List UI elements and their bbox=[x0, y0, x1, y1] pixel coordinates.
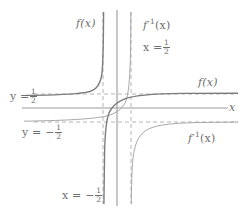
fraction-one-half-y-negative: 12 bbox=[55, 124, 62, 141]
curve-f-inverse-right-branch bbox=[131, 122, 238, 204]
fraction-one-half-x-negative: 12 bbox=[95, 187, 102, 204]
label-f-right: f(x) bbox=[198, 77, 218, 88]
label-f-inverse-top-exponent: -1 bbox=[147, 17, 155, 26]
label-x-equals-negative-half: x = −12 bbox=[62, 187, 103, 204]
label-f-inverse-right: f-1(x) bbox=[188, 131, 215, 144]
fraction-one-half-y-positive: 12 bbox=[30, 88, 37, 105]
fraction-one-half-x-positive: 12 bbox=[163, 39, 170, 56]
label-f-inverse-right-exponent: -1 bbox=[192, 130, 200, 139]
label-y-equals-half: y =12 bbox=[10, 88, 38, 105]
function-inverse-plot: f(x) f-1(x) x =12 f(x) y =12 x y = −12 f… bbox=[0, 0, 242, 216]
plot-canvas bbox=[0, 0, 242, 216]
label-f-inverse-top-tail: (x) bbox=[155, 19, 170, 32]
label-f-top: f(x) bbox=[76, 18, 96, 29]
label-x-equals-half: x =12 bbox=[143, 39, 171, 56]
label-f-inverse-right-tail: (x) bbox=[200, 132, 215, 145]
label-y-equals-negative-half: y = −12 bbox=[22, 124, 63, 141]
label-f-inverse-top: f-1(x) bbox=[143, 18, 170, 31]
curve-f-right-branch bbox=[104, 93, 238, 204]
label-axis-x: x bbox=[229, 102, 235, 113]
